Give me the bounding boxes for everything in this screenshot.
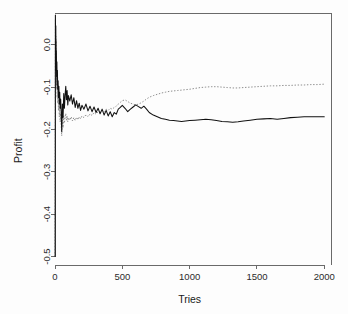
y-tick-label: -0.1 xyxy=(42,79,53,95)
y-tick-label: 0.0 xyxy=(42,38,53,51)
y-axis-title: Profit xyxy=(12,138,24,163)
x-axis-group: 0500100015002000 xyxy=(52,265,334,282)
x-tick-label: 0 xyxy=(52,271,57,282)
x-axis-tick-labels: 0500100015002000 xyxy=(52,271,334,282)
x-tick-label: 1000 xyxy=(179,271,200,282)
y-axis-ticks xyxy=(51,45,55,257)
x-tick-label: 500 xyxy=(114,271,130,282)
x-axis-ticks xyxy=(55,265,324,269)
y-axis-tick-labels: 0.0-0.1-0.2-0.3-0.4-0.5 xyxy=(42,38,53,265)
plot-figure: 0.0-0.1-0.2-0.3-0.4-0.5 0500100015002000… xyxy=(0,0,348,314)
dotted-gray-curve xyxy=(55,19,324,256)
y-tick-label: -0.2 xyxy=(42,121,53,137)
y-axis-group: 0.0-0.1-0.2-0.3-0.4-0.5 xyxy=(42,38,56,265)
solid-black-curve xyxy=(55,15,324,256)
y-tick-label: -0.4 xyxy=(42,206,53,222)
x-axis-title: Tries xyxy=(178,293,201,305)
chart-canvas: 0.0-0.1-0.2-0.3-0.4-0.5 0500100015002000… xyxy=(0,0,348,314)
data-series-group xyxy=(55,15,324,256)
x-tick-label: 2000 xyxy=(314,271,335,282)
y-tick-label: -0.5 xyxy=(42,248,53,264)
x-tick-label: 1500 xyxy=(246,271,267,282)
plot-frame xyxy=(55,13,331,265)
y-tick-label: -0.3 xyxy=(42,164,53,180)
